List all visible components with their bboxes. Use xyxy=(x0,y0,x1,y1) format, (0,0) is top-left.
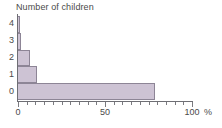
x-tick-35 xyxy=(79,102,80,105)
x-tick-45 xyxy=(96,102,97,105)
y-axis-tick-labels: 0 1 2 3 4 xyxy=(0,16,14,100)
x-tick-85 xyxy=(166,102,167,105)
bar-category-4 xyxy=(18,16,20,33)
x-tick-15 xyxy=(44,102,45,105)
chart-container: Number of children 0 1 2 3 4 050100 % xyxy=(0,0,222,128)
x-tick-95 xyxy=(183,102,184,105)
x-tick-25 xyxy=(62,102,63,105)
y-tick-label-0: 0 xyxy=(0,87,14,96)
y-tick-label-2: 2 xyxy=(0,53,14,62)
x-tick-40 xyxy=(88,102,89,105)
x-tick-10 xyxy=(35,102,36,105)
x-tick-55 xyxy=(114,102,115,105)
x-tick-75 xyxy=(149,102,150,105)
x-tick-20 xyxy=(53,102,54,105)
y-tick-label-3: 3 xyxy=(0,36,14,45)
bar-category-3 xyxy=(18,33,21,50)
x-tick-65 xyxy=(131,102,132,105)
x-tick-30 xyxy=(70,102,71,105)
bar-category-0 xyxy=(18,83,155,100)
bar-category-2 xyxy=(18,50,30,67)
y-tick-label-1: 1 xyxy=(0,70,14,79)
y-tick-label-4: 4 xyxy=(0,19,14,28)
plot-area xyxy=(18,16,192,100)
x-tick-5 xyxy=(27,102,28,105)
chart-title: Number of children xyxy=(16,2,94,13)
x-tick-60 xyxy=(122,102,123,105)
x-tick-90 xyxy=(175,102,176,105)
x-tick-label-50: 50 xyxy=(100,107,110,117)
bar-category-1 xyxy=(18,66,37,83)
x-axis-unit-label: % xyxy=(204,107,212,117)
x-tick-label-0: 0 xyxy=(15,107,20,117)
x-tick-label-100: 100 xyxy=(184,107,199,117)
x-tick-80 xyxy=(157,102,158,105)
x-tick-70 xyxy=(140,102,141,105)
